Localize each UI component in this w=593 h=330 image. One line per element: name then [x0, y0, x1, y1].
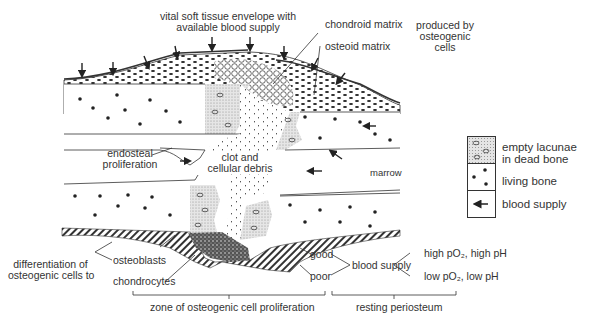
differentiation-line2: osteogenic cells to [8, 270, 93, 281]
soft-tissue-label-line2: available blood supply [160, 22, 296, 33]
legend-label-dead-bone: empty lacunae in dead bone [502, 141, 577, 165]
produced-by-label: produced by osteogenic cells [415, 20, 475, 53]
zone-proliferation-label: zone of osteogenic cell proliferation [150, 302, 315, 313]
dead-bone-lower-left [190, 185, 220, 236]
endosteal-proliferation-label: endosteal proliferation [100, 148, 160, 170]
soft-tissue-label: vital soft tissue envelope with availabl… [160, 11, 296, 33]
poor-label: poor [310, 271, 331, 282]
clot-line2: cellular debris [205, 163, 275, 174]
legend-swatch-living-bone [468, 164, 495, 191]
marrow-label: marrow [370, 167, 402, 178]
high-po2-label: high pO₂, high pH [424, 248, 507, 259]
produced-line3: cells [415, 42, 475, 53]
upper-cortex-left [64, 84, 224, 134]
clot-label: clot and cellular debris [205, 152, 275, 174]
chondrocytes-label: chondrocytes [113, 276, 175, 287]
blood-supply-label: blood supply [352, 260, 411, 271]
good-label: good [310, 249, 333, 260]
legend-swatch-blood-supply [468, 191, 495, 217]
legend-label-living-bone: living bone [502, 175, 557, 187]
legend-dead-line1: empty lacunae [502, 141, 577, 153]
osteoblasts-label: osteoblasts [113, 255, 166, 266]
legend-swatch-dead-bone [468, 137, 495, 164]
arrow-left-icon [475, 201, 480, 207]
differentiation-label: differentiation of osteogenic cells to [8, 259, 93, 281]
legend [467, 136, 496, 218]
low-po2-label: low pO₂, low pH [424, 271, 499, 282]
endosteal-line2: proliferation [100, 159, 160, 170]
legend-label-blood-supply: blood supply [502, 198, 567, 210]
chondroid-matrix-label: chondroid matrix [325, 19, 403, 30]
osteoid-matrix-label: osteoid matrix [325, 41, 390, 52]
legend-dead-line2: in dead bone [502, 153, 577, 165]
resting-periosteum-label: resting periosteum [356, 302, 442, 313]
